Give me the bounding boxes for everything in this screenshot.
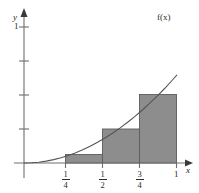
fraction-denominator: 4 [132,181,148,190]
x-tick-label-half: 1 2 [95,170,111,190]
fraction-denominator: 2 [95,181,111,190]
fraction-numerator: 1 [58,170,74,179]
fraction-numerator: 3 [132,170,148,179]
function-label: f(x) [157,13,171,22]
x-tick-label-quarter: 1 4 [58,170,74,190]
fraction-numerator: 1 [95,170,111,179]
y-tick-label-one: 1 [14,22,19,31]
riemann-bar-1 [66,155,103,164]
plot-canvas [0,0,199,193]
y-axis-arrow-icon [21,8,28,17]
fraction-denominator: 4 [58,181,74,190]
x-tick-label-three-quarter: 3 4 [132,170,148,190]
riemann-bar-2 [103,129,140,163]
x-tick-label-one: 1 [174,170,179,179]
riemann-bar-3 [140,95,177,164]
x-axis-label: x [186,166,190,175]
riemann-sum-figure: y 1 x f(x) 1 4 1 2 3 4 1 [0,0,199,193]
